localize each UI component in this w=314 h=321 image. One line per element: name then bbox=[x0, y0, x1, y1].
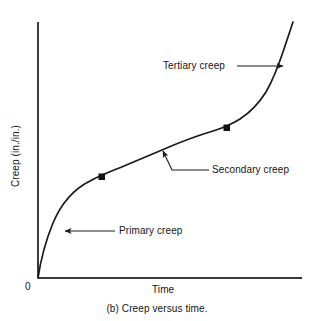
marker-secondary-tertiary bbox=[224, 125, 231, 132]
y-axis-title: Creep (in./in.) bbox=[9, 108, 21, 204]
y-axis-title-text: Creep (in./in.) bbox=[10, 125, 21, 187]
figure-caption: (b) Creep versus time. bbox=[0, 303, 314, 314]
tertiary-creep-label: Tertiary creep bbox=[163, 60, 225, 71]
creep-curve-plot bbox=[0, 0, 314, 321]
x-axis-title: Time bbox=[152, 284, 174, 295]
creep-versus-time-figure: Creep (in./in.) 0 Time Tertiary creep Se… bbox=[0, 0, 314, 321]
marker-primary-secondary bbox=[99, 174, 106, 181]
secondary-creep-leader-line bbox=[163, 151, 209, 170]
primary-creep-label: Primary creep bbox=[119, 225, 183, 236]
secondary-creep-label: Secondary creep bbox=[212, 164, 289, 175]
origin-label: 0 bbox=[25, 281, 31, 292]
